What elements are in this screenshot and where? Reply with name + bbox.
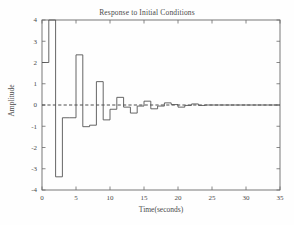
svg-text:1: 1	[34, 80, 38, 88]
svg-text:35: 35	[277, 194, 285, 202]
svg-text:20: 20	[175, 194, 183, 202]
svg-text:10: 10	[107, 194, 115, 202]
svg-text:3: 3	[34, 38, 38, 46]
svg-text:4: 4	[34, 16, 38, 24]
svg-text:0: 0	[34, 101, 38, 109]
svg-text:5: 5	[74, 194, 78, 202]
svg-text:-4: -4	[31, 186, 37, 194]
x-axis-ticks: 05101520253035	[40, 20, 284, 202]
svg-text:15: 15	[141, 194, 149, 202]
svg-text:-3: -3	[31, 165, 37, 173]
x-axis-label: Time(seconds)	[42, 205, 280, 214]
chart-plot-area: 05101520253035 -4-3-2-101234	[0, 0, 294, 225]
figure-canvas: Response to Initial Conditions 051015202…	[0, 0, 294, 225]
response-step-curve	[42, 20, 280, 177]
svg-text:-1: -1	[31, 123, 37, 131]
svg-text:0: 0	[40, 194, 44, 202]
svg-text:30: 30	[243, 194, 251, 202]
y-axis-label: Amplitude	[7, 71, 16, 131]
svg-text:-2: -2	[31, 144, 37, 152]
svg-text:2: 2	[34, 59, 38, 67]
svg-text:25: 25	[209, 194, 217, 202]
